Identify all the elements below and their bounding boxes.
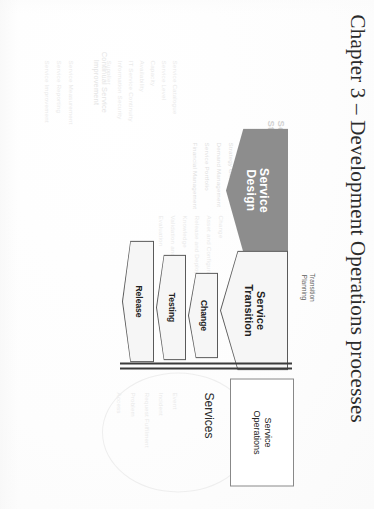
ghost-strategy-item-2: Service Portfolio — [204, 142, 211, 190]
stage-service-design[interactable]: Service Design — [226, 128, 288, 252]
ghost-design-item-1: Service Level — [161, 60, 168, 100]
ghost-transition-item-0: Change — [218, 215, 225, 238]
ghost-csi-item-0: Service Measurement — [68, 60, 75, 124]
stage-release[interactable]: Release — [122, 240, 154, 362]
ghost-design-item-2: Capacity — [150, 60, 157, 86]
services-label: Services — [202, 392, 216, 438]
stage-change[interactable]: Change — [188, 272, 218, 358]
ghost-strategy-item-1: Demand Management — [216, 142, 223, 207]
page-title: Chapter 3 – Development Operations proce… — [345, 14, 370, 494]
stage-change-label: Change — [198, 299, 207, 330]
service-operations-box[interactable]: Service Operations — [230, 378, 294, 486]
ghost-csi-item-1: Service Reporting — [56, 60, 63, 113]
slide-canvas: Chapter 3 – Development Operations proce… — [0, 0, 374, 509]
stage-testing[interactable]: Testing — [156, 254, 186, 360]
stage-testing-fill: Testing — [157, 255, 185, 359]
ghost-transition-item-3: Knowledge — [182, 215, 189, 247]
ghost-strategy-item-3: Financial Management — [192, 142, 199, 209]
transition-planning-label: Transition Planning — [300, 258, 316, 316]
stage-service-transition-fill: Service Transition — [221, 251, 287, 369]
scanned-page: Chapter 3 – Development Operations proce… — [0, 0, 374, 509]
baseline-rule-outer — [120, 362, 292, 364]
stage-service-transition-label: Service Transition — [242, 284, 266, 337]
ghost-design-item-3: Availability — [139, 60, 146, 92]
stage-testing-label: Testing — [166, 292, 175, 322]
stage-release-label: Release — [133, 285, 142, 317]
stage-change-fill: Change — [189, 273, 217, 357]
service-operations-label: Service Operations — [251, 410, 274, 454]
ghost-design-item-0: Service Catalogue — [172, 60, 179, 114]
ghost-design-item-5: Information Security — [117, 60, 124, 119]
ghost-csi-item-2: Service Improvement — [44, 60, 51, 122]
ghost-design-item-6: Supplier — [106, 60, 113, 84]
stage-service-transition[interactable]: Service Transition — [220, 250, 288, 370]
stage-release-fill: Release — [123, 241, 153, 361]
stage-service-design-label: Service Design — [244, 168, 269, 213]
baseline-rule-inner — [120, 367, 292, 369]
ghost-design-item-4: IT Service Continuity — [128, 60, 135, 121]
ghost-transition-item-5: Evaluation — [158, 215, 165, 246]
